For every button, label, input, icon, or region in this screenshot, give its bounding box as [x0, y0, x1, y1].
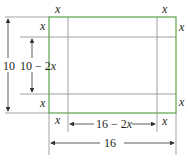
label-width-outer: 16	[104, 136, 116, 150]
label-x-right-bottom: x	[178, 95, 185, 109]
label-height-outer: 10	[3, 59, 15, 73]
label-x-bottom-left: x	[54, 113, 61, 127]
fold-lines	[49, 17, 176, 113]
label-x-right-top: x	[178, 20, 185, 34]
label-x-left-bottom: x	[39, 96, 46, 110]
box-cut-diagram: x x x x x x x x 10 10 − 2x 16 − 2x 16	[0, 0, 188, 160]
extension-lines	[5, 17, 176, 155]
label-x-top-left: x	[54, 2, 61, 16]
label-x-left-top: x	[39, 19, 46, 33]
label-height-inner: 10 − 2x	[20, 59, 57, 73]
label-width-inner: 16 − 2x	[96, 117, 133, 131]
label-x-top-right: x	[161, 2, 168, 16]
dimension-arrows	[8, 19, 174, 143]
label-x-bottom-right: x	[161, 114, 168, 128]
